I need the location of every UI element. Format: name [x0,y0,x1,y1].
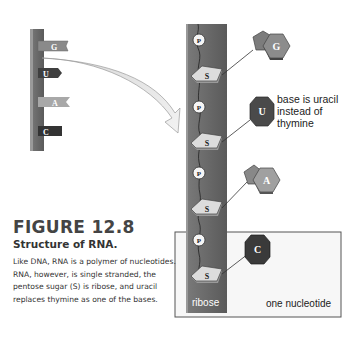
zoom-arrow [42,58,180,133]
svg-text:G: G [273,41,281,52]
small-base-u [38,68,62,78]
figure-caption: FIGURE 12.8 Structure of RNA. Like DNA, … [13,218,188,306]
svg-text:S: S [205,139,210,148]
svg-text:S: S [205,272,210,281]
svg-text:P: P [197,237,202,245]
figure-body: Like DNA, RNA is a polymer of nucleotide… [13,256,188,306]
svg-text:P: P [197,37,202,45]
svg-text:A: A [263,175,271,186]
svg-text:U: U [258,106,265,117]
small-base-g-label: G [51,43,57,52]
small-rna-strand: G U A C [30,29,70,151]
svg-text:P: P [197,170,202,178]
small-base-c [38,126,62,136]
small-base-a-label: A [52,99,58,108]
figure-number: FIGURE 12.8 [13,218,188,237]
base-a: A [244,165,280,194]
phosphate-2: P [193,101,205,113]
phosphate-4: P [193,234,205,246]
base-c: C [245,235,270,264]
base-note: base is uracil instead of thymine [277,93,357,129]
nucleotide-label: one nucleotide [266,298,331,309]
svg-text:S: S [205,72,210,81]
svg-text:P: P [197,104,202,112]
small-base-c-label: C [43,128,49,137]
small-base-u-label: U [43,70,49,79]
ribose-label: ribose [192,297,219,308]
figure-title: Structure of RNA. [13,238,188,250]
svg-text:C: C [254,244,261,255]
base-u: U [250,97,274,126]
phosphate-1: P [193,34,205,46]
phosphate-3: P [193,167,205,179]
svg-text:S: S [205,205,210,214]
base-g: G [253,31,290,60]
